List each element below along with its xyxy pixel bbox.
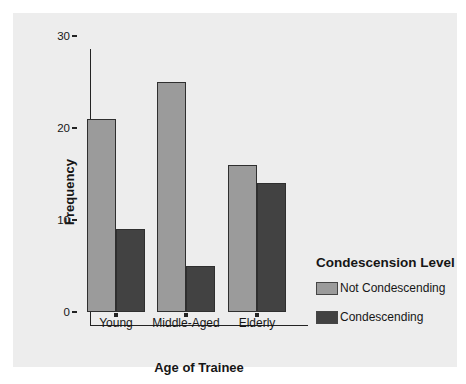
legend-label: Condescending	[340, 311, 423, 324]
x-tick-label: Elderly	[239, 317, 276, 330]
legend-item: Condescending	[316, 311, 466, 324]
legend-item: Not Condescending	[316, 282, 466, 295]
y-tick-mark	[72, 35, 77, 37]
y-tick-label: 30	[36, 30, 70, 42]
y-tick-mark	[72, 219, 77, 221]
legend-items: Not CondescendingCondescending	[316, 282, 466, 324]
y-tick-mark	[72, 311, 77, 313]
bar-young-condescending	[116, 229, 145, 312]
legend-swatch-condescending	[316, 311, 338, 324]
y-tick-label: 10	[36, 214, 70, 226]
chart-panel: Frequency Age of Trainee Condescension L…	[13, 13, 457, 367]
x-axis-title: Age of Trainee	[154, 360, 244, 375]
x-tick-label: Young	[99, 317, 133, 330]
y-tick-label: 20	[36, 122, 70, 134]
legend: Condescension Level Not CondescendingCon…	[316, 255, 466, 340]
x-tick-label: Middle-Aged	[152, 317, 219, 330]
bar-elderly-not-condescending	[228, 165, 257, 312]
y-tick-label: 0	[36, 306, 70, 318]
chart-screenshot: Frequency Age of Trainee Condescension L…	[0, 0, 466, 384]
bar-young-not-condescending	[87, 119, 116, 312]
y-tick-mark	[72, 127, 77, 129]
bar-elderly-condescending	[257, 183, 286, 312]
legend-swatch-not-condescending	[316, 282, 338, 295]
bar-middle-aged-condescending	[186, 266, 215, 312]
legend-label: Not Condescending	[340, 282, 445, 295]
legend-title: Condescension Level	[316, 255, 466, 270]
bar-middle-aged-not-condescending	[157, 82, 186, 312]
